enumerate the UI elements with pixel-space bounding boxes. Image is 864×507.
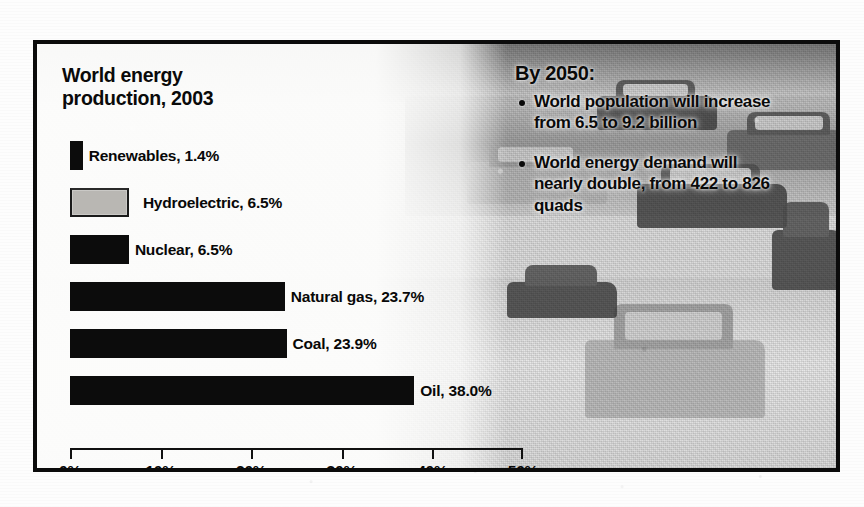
bar-oil: [70, 376, 414, 405]
x-axis-tick: [432, 448, 434, 459]
x-axis-tick-label: 50%: [508, 462, 538, 472]
forecast-bullet-text: World energy demand will nearly double, …: [534, 152, 784, 216]
forecast-heading: By 2050:: [515, 62, 815, 85]
bar-series: Renewables, 1.4%Hydroelectric, 6.5%Nucle…: [37, 44, 537, 468]
x-axis-tick-label: 40%: [417, 462, 447, 472]
bar-label-coal: Coal, 23.9%: [293, 335, 377, 353]
forecast-bullet-list: World population will increase from 6.5 …: [515, 91, 815, 216]
energy-production-chart: World energy production, 2003 Renewables…: [37, 44, 537, 468]
bar-nuclear: [70, 235, 129, 264]
bar-natural-gas: [70, 282, 285, 311]
x-axis-tick: [521, 448, 523, 459]
x-axis-tick-label: 30%: [327, 462, 357, 472]
forecast-bullet-text: World population will increase from 6.5 …: [534, 91, 784, 134]
bar-label-nuclear: Nuclear, 6.5%: [135, 241, 232, 259]
x-axis-tick-label: 20%: [236, 462, 266, 472]
bar-renewables: [70, 141, 83, 170]
x-axis: [70, 448, 523, 460]
x-axis-tick: [251, 448, 253, 459]
x-axis-tick: [70, 448, 72, 459]
bullet-dot-icon: [519, 100, 525, 106]
bar-row: Coal, 23.9%: [70, 329, 376, 358]
bar-row: Renewables, 1.4%: [70, 141, 219, 170]
bullet-dot-icon: [519, 161, 525, 167]
bar-label-hydroelectric: Hydroelectric, 6.5%: [143, 194, 282, 212]
x-axis-line: [70, 448, 523, 450]
x-axis-tick-label: 10%: [145, 462, 175, 472]
bar-coal: [70, 329, 287, 358]
forecast-bullet-item: World energy demand will nearly double, …: [515, 152, 815, 216]
x-axis-tick: [342, 448, 344, 459]
bar-label-renewables: Renewables, 1.4%: [89, 147, 219, 165]
bar-row: Natural gas, 23.7%: [70, 282, 424, 311]
bar-row: Oil, 38.0%: [70, 376, 492, 405]
x-axis-tick-label: 0%: [59, 462, 81, 472]
x-axis-tick-labels: 0%10%20%30%40%50%: [70, 462, 523, 472]
forecast-callout: By 2050: World population will increase …: [515, 62, 815, 234]
bar-row: Nuclear, 6.5%: [70, 235, 232, 264]
bar-row: Hydroelectric, 6.5%: [70, 188, 282, 217]
forecast-bullet-item: World population will increase from 6.5 …: [515, 91, 815, 134]
x-axis-tick: [161, 448, 163, 459]
figure-frame: World energy production, 2003 Renewables…: [33, 40, 840, 472]
bar-label-natural-gas: Natural gas, 23.7%: [291, 288, 424, 306]
bar-label-oil: Oil, 38.0%: [420, 382, 491, 400]
bar-hydroelectric: [70, 188, 129, 217]
